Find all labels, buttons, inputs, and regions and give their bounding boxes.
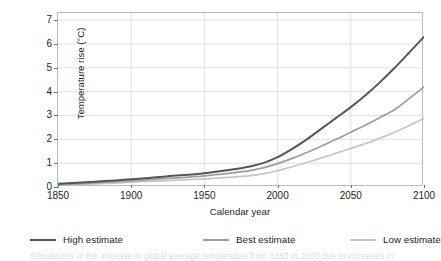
plot-area: Temperature rise (°C) 012345671850190019… [57,12,423,186]
legend-label: High estimate [63,234,123,246]
y-tick-mark [54,68,58,69]
legend-swatch-line-icon [350,239,376,241]
series-line [58,37,424,184]
x-tick-label: 1950 [193,190,215,201]
y-axis-title: Temperature rise (°C) [75,0,86,159]
x-axis-title: Calendar year [57,206,423,217]
y-tick-mark [54,115,58,116]
y-tick-label: 5 [46,63,52,73]
y-tick-label: 4 [46,87,52,97]
legend-label: Low estimate [383,234,441,246]
x-tick-label: 2100 [413,190,435,201]
x-tick-mark [278,185,279,188]
clipped-caption-text: Simulations of the increase in global av… [30,251,430,261]
x-tick-mark [351,185,352,188]
y-tick-label: 1 [46,158,52,168]
x-tick-mark [58,185,59,188]
legend-swatch-line-icon [203,239,229,241]
legend-label: Best estimate [236,234,295,246]
legend-swatch-line-icon [30,239,56,241]
chart-legend: High estimateBest estimateLow estimate [0,233,438,247]
x-tick-label: 1900 [120,190,142,201]
legend-item[interactable]: Low estimate [350,233,441,247]
y-tick-label: 2 [46,134,52,144]
y-tick-mark [54,44,58,45]
series-line [58,118,424,185]
y-tick-mark [54,163,58,164]
y-tick-label: 3 [46,110,52,120]
clipped-top-text [6,0,436,3]
x-tick-mark [131,185,132,188]
chart-canvas [58,13,424,187]
legend-item[interactable]: Best estimate [203,233,295,247]
y-tick-label: 6 [46,39,52,49]
y-tick-mark [54,20,58,21]
x-tick-label: 1850 [47,190,69,201]
y-tick-mark [54,139,58,140]
y-tick-label: 7 [46,15,52,25]
x-tick-label: 2000 [266,190,288,201]
x-tick-mark [424,185,425,188]
series-line [58,87,424,185]
y-tick-mark [54,92,58,93]
x-tick-label: 2050 [340,190,362,201]
x-tick-mark [204,185,205,188]
legend-item[interactable]: High estimate [30,233,123,247]
